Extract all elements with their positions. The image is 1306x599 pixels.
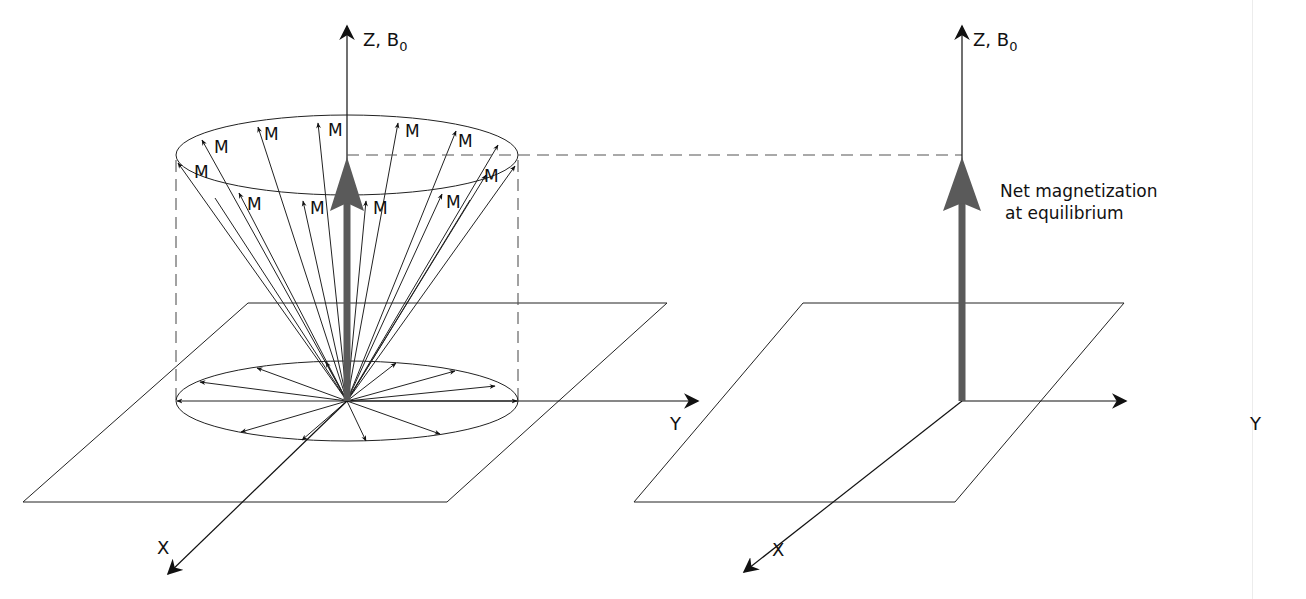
net-magnetization-head <box>943 157 981 211</box>
svg-text:M: M <box>328 120 343 140</box>
svg-text:M: M <box>373 198 388 218</box>
svg-text:M: M <box>247 194 262 214</box>
svg-text:M: M <box>310 198 325 218</box>
left-panel: M M M M M M M M M M M Z, B0 Y X <box>23 26 698 574</box>
x-axis-label: X <box>157 537 169 558</box>
svg-text:M: M <box>446 192 461 212</box>
net-magnetization-head <box>330 157 364 211</box>
equilibrium-label: at equilibrium <box>1005 203 1124 223</box>
svg-text:M: M <box>484 166 499 186</box>
xy-plane <box>634 303 1124 502</box>
y-axis-label: Y <box>669 413 682 434</box>
y-axis-label: Y <box>1249 413 1262 434</box>
svg-text:M: M <box>458 131 473 151</box>
z-axis-label: Z, B0 <box>973 29 1017 54</box>
magnetization-diagram: M M M M M M M M M M M Z, B0 Y X Z, B0 Y … <box>0 0 1306 599</box>
svg-text:M: M <box>264 124 279 144</box>
svg-text:M: M <box>194 162 209 182</box>
svg-text:M: M <box>214 137 229 157</box>
right-panel: Z, B0 Y X Net magnetization at equilibri… <box>634 26 1262 572</box>
z-axis-label: Z, B0 <box>363 29 407 54</box>
x-axis-label: X <box>772 539 784 560</box>
svg-text:M: M <box>405 121 420 141</box>
net-magnetization-label: Net magnetization <box>1000 181 1158 201</box>
